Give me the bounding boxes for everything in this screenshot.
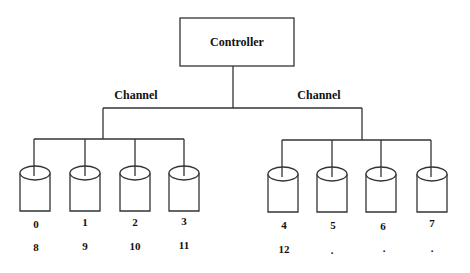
- disk-5-id: 5: [330, 219, 336, 231]
- disk-2: [120, 139, 150, 211]
- disk-6-second: .: [383, 242, 386, 254]
- disk-6: [366, 140, 396, 212]
- disk-0-id: 0: [33, 218, 39, 230]
- channel-label-right: Channel: [297, 88, 341, 102]
- channel-right: 4 5 6 7 12 . . .: [268, 108, 447, 256]
- disk-2-id: 2: [132, 216, 138, 228]
- disk-6-id: 6: [380, 220, 386, 232]
- disk-4-id: 4: [281, 219, 287, 231]
- disk-top-icon: [417, 167, 447, 181]
- disk-3: [169, 139, 199, 211]
- disk-top-icon: [20, 166, 50, 180]
- disk-top-icon: [268, 167, 298, 181]
- disk-4-second: 12: [279, 243, 291, 255]
- disk-7-second: .: [431, 242, 434, 254]
- disk-5: [317, 140, 347, 212]
- disk-7-id: 7: [429, 217, 435, 229]
- disk-1: [70, 139, 100, 211]
- disk-1-second: 9: [82, 240, 88, 252]
- disk-3-id: 3: [181, 215, 187, 227]
- channel-left: 0 1 2 3 8 9 10 11: [20, 108, 199, 253]
- channel-label-left: Channel: [114, 88, 158, 102]
- disk-7: [417, 140, 447, 212]
- disk-3-second: 11: [179, 239, 189, 251]
- disk-0-second: 8: [33, 241, 39, 253]
- disk-2-second: 10: [130, 240, 142, 252]
- raid-controller-diagram: Controller Channel Channel: [0, 0, 470, 273]
- disk-1-id: 1: [82, 216, 88, 228]
- controller-label: Controller: [210, 35, 264, 49]
- controller-node: Controller: [180, 18, 294, 66]
- disk-5-second: .: [331, 244, 334, 256]
- disk-0: [20, 139, 50, 211]
- disk-4: [268, 140, 298, 212]
